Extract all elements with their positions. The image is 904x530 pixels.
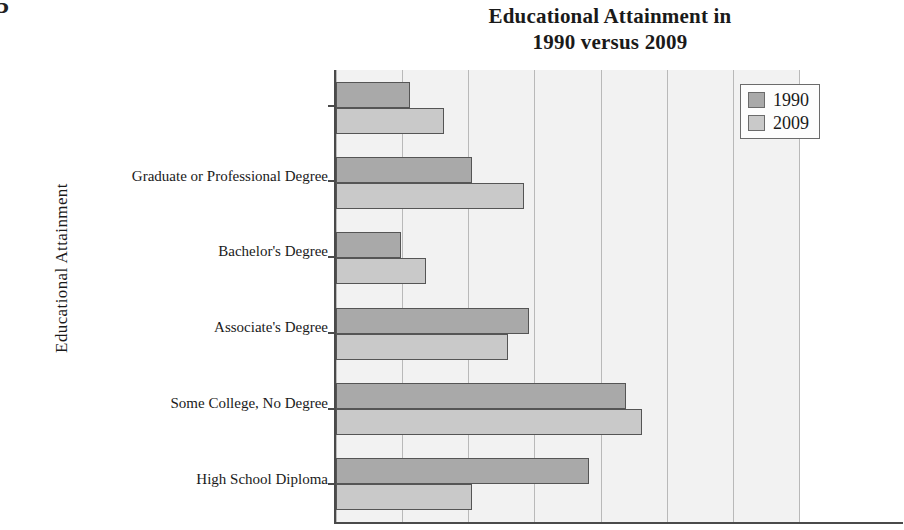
gridline-5 bbox=[402, 70, 403, 522]
legend-label-1990: 1990 bbox=[773, 91, 809, 109]
bar-some-college-no-degree-1990[interactable] bbox=[336, 308, 529, 334]
legend-swatch-1990-icon bbox=[748, 92, 765, 108]
category-label-high-school-diploma: High School Diploma bbox=[38, 472, 328, 487]
bar-some-college-no-degree-2009[interactable] bbox=[336, 334, 508, 360]
page-corner-mark: 5 bbox=[0, 0, 9, 20]
bar-associate-s-degree-1990[interactable] bbox=[336, 232, 401, 258]
gridline-25 bbox=[667, 70, 668, 522]
category-label-bachelors-degree: Bachelor's Degree bbox=[38, 244, 328, 259]
bar-group-bachelor-s-degree bbox=[336, 157, 799, 209]
chart-title-line-2: 1990 versus 2009 bbox=[330, 30, 890, 56]
category-label-associates-degree: Associate's Degree bbox=[38, 320, 328, 335]
bar-group-not-a-high-school-graduate bbox=[336, 458, 799, 510]
bar-high-school-diploma-1990[interactable] bbox=[336, 383, 626, 409]
bar-graduate-or-professional-degree-2009[interactable] bbox=[336, 108, 444, 134]
chart-title: Educational Attainment in 1990 versus 20… bbox=[330, 4, 890, 55]
gridline-10 bbox=[468, 70, 469, 522]
bar-associate-s-degree-2009[interactable] bbox=[336, 258, 426, 284]
bar-high-school-diploma-2009[interactable] bbox=[336, 409, 642, 435]
chart-legend: 1990 2009 bbox=[740, 84, 820, 139]
bar-bachelor-s-degree-1990[interactable] bbox=[336, 157, 472, 183]
bar-group-some-college-no-degree bbox=[336, 308, 799, 360]
legend-swatch-2009-icon bbox=[748, 115, 765, 131]
bar-group-graduate-or-professional-degree bbox=[336, 82, 799, 134]
bar-not-a-high-school-graduate-2009[interactable] bbox=[336, 484, 472, 510]
chart-figure: 5 Educational Attainment in 1990 versus … bbox=[0, 0, 904, 530]
gridline-0 bbox=[336, 70, 337, 522]
chart-title-line-1: Educational Attainment in bbox=[330, 4, 890, 30]
gridline-20 bbox=[601, 70, 602, 522]
category-axis-labels: Graduate or Professional Degree Bachelor… bbox=[34, 70, 328, 522]
bar-graduate-or-professional-degree-1990[interactable] bbox=[336, 82, 410, 108]
plot-area bbox=[334, 70, 799, 522]
gridline-15 bbox=[534, 70, 535, 522]
legend-entry-1990[interactable]: 1990 bbox=[748, 91, 809, 109]
legend-entry-2009[interactable]: 2009 bbox=[748, 114, 809, 132]
category-label-some-college-no-degree: Some College, No Degree bbox=[38, 396, 328, 411]
bar-bachelor-s-degree-2009[interactable] bbox=[336, 183, 524, 209]
bar-group-high-school-diploma bbox=[336, 383, 799, 435]
category-label-graduate-or-professional-degree: Graduate or Professional Degree bbox=[38, 169, 328, 184]
bar-group-associate-s-degree bbox=[336, 232, 799, 284]
legend-label-2009: 2009 bbox=[773, 114, 809, 132]
bar-not-a-high-school-graduate-1990[interactable] bbox=[336, 458, 589, 484]
gridline-30 bbox=[733, 70, 734, 522]
